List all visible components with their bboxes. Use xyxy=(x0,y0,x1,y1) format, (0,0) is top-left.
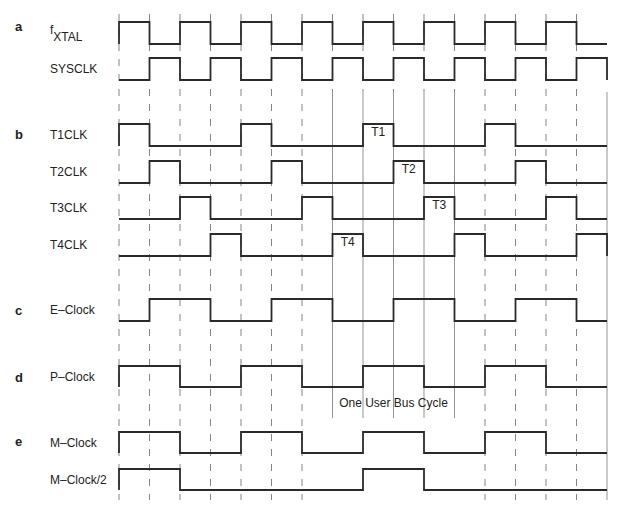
pulse-tag-t2: T2 xyxy=(402,162,416,176)
signal-label-eclock: E–Clock xyxy=(50,303,96,317)
section-letters: abcde xyxy=(15,19,23,449)
signal-label-t1clk: T1CLK xyxy=(50,128,87,142)
signal-label-pclock: P–Clock xyxy=(50,370,96,384)
section-letter-a: a xyxy=(15,19,23,34)
signal-label-t4clk: T4CLK xyxy=(50,238,87,252)
signal-label-sysclk: SYSCLK xyxy=(50,62,97,76)
section-letter-c: c xyxy=(15,303,22,318)
pulse-tag-t4: T4 xyxy=(341,235,355,249)
bus-cycle-annotation: One User Bus Cycle xyxy=(339,396,448,410)
timing-diagram: abcde fXTALSYSCLKT1CLKT2CLKT3CLKT4CLKE–C… xyxy=(0,0,619,507)
bus-cycle-label: One User Bus Cycle xyxy=(339,396,448,410)
waveform-pclock xyxy=(119,366,607,387)
pulse-tag-t1: T1 xyxy=(371,125,385,139)
waveform-sysclk xyxy=(119,58,607,80)
section-letter-b: b xyxy=(15,127,23,142)
section-letter-d: d xyxy=(15,370,23,385)
signal-label-subscript: XTAL xyxy=(53,30,82,44)
signal-label-t3clk: T3CLK xyxy=(50,201,87,215)
waveform-mclock xyxy=(119,432,607,453)
pulse-tag-t3: T3 xyxy=(432,198,446,212)
signal-label-mclock2: M–Clock/2 xyxy=(50,473,107,487)
waveform-t1clk xyxy=(119,124,607,146)
waveform-fxtal xyxy=(119,22,607,44)
waveform-mclock2 xyxy=(119,469,607,490)
signal-label-t2clk: T2CLK xyxy=(50,165,87,179)
signal-label-fxtal: fXTAL xyxy=(50,23,83,44)
signal-labels: fXTALSYSCLKT1CLKT2CLKT3CLKT4CLKE–ClockP–… xyxy=(50,23,107,487)
section-letter-e: e xyxy=(15,434,22,449)
signal-label-mclock: M–Clock xyxy=(50,436,98,450)
grid-lines xyxy=(119,14,607,500)
waveform-t4clk xyxy=(119,234,607,256)
